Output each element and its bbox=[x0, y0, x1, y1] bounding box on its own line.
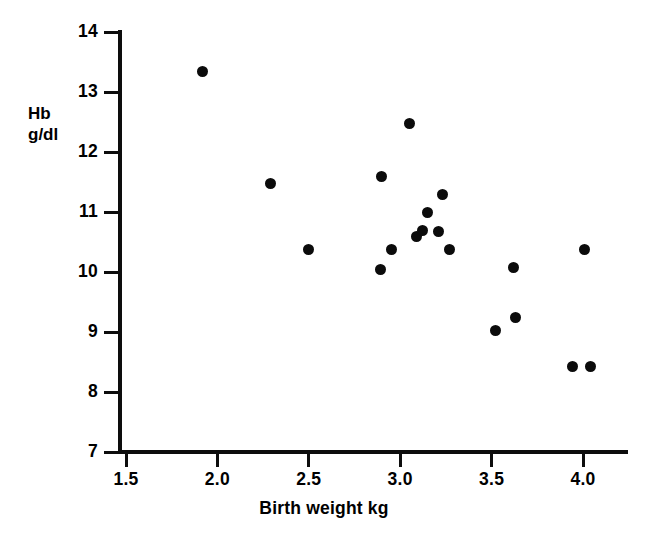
data-point bbox=[404, 118, 415, 129]
y-axis-title-line-1: g/dl bbox=[28, 125, 58, 146]
y-tick-8 bbox=[104, 391, 118, 394]
x-tick-label-1.5: 1.5 bbox=[96, 469, 156, 490]
data-point bbox=[433, 226, 444, 237]
data-point bbox=[375, 264, 386, 275]
y-tick-label-14: 14 bbox=[58, 21, 98, 42]
data-point bbox=[197, 66, 208, 77]
data-point bbox=[422, 207, 433, 218]
x-axis-line bbox=[120, 450, 628, 454]
y-tick-label-12: 12 bbox=[58, 141, 98, 162]
y-axis-title-line-0: Hb bbox=[28, 104, 58, 125]
data-point bbox=[567, 361, 578, 372]
x-tick-1.5 bbox=[125, 454, 128, 467]
data-point bbox=[585, 361, 596, 372]
y-tick-label-13: 13 bbox=[58, 81, 98, 102]
y-tick-label-8: 8 bbox=[58, 381, 98, 402]
data-point bbox=[265, 178, 276, 189]
chart-figure: 7891011121314 1.52.02.53.03.54.0 Hbg/dl … bbox=[0, 0, 648, 544]
x-axis-title: Birth weight kg bbox=[0, 498, 648, 519]
data-point bbox=[508, 262, 519, 273]
data-point bbox=[579, 244, 590, 255]
data-point bbox=[490, 325, 501, 336]
x-tick-label-3.5: 3.5 bbox=[462, 469, 522, 490]
y-axis-line bbox=[118, 30, 122, 454]
y-tick-12 bbox=[104, 151, 118, 154]
scatter-plot-area: 7891011121314 1.52.02.53.03.54.0 Hbg/dl … bbox=[0, 0, 648, 544]
y-axis-title: Hbg/dl bbox=[28, 104, 58, 145]
x-tick-label-4.0: 4.0 bbox=[553, 469, 613, 490]
data-point bbox=[444, 244, 455, 255]
x-tick-label-2.0: 2.0 bbox=[187, 469, 247, 490]
y-tick-14 bbox=[104, 31, 118, 34]
x-tick-label-3.0: 3.0 bbox=[370, 469, 430, 490]
y-tick-label-7: 7 bbox=[58, 441, 98, 462]
data-point bbox=[376, 171, 387, 182]
x-tick-2.5 bbox=[307, 454, 310, 467]
y-tick-label-10: 10 bbox=[58, 261, 98, 282]
x-tick-3.5 bbox=[490, 454, 493, 467]
data-point bbox=[417, 225, 428, 236]
y-tick-9 bbox=[104, 331, 118, 334]
x-tick-3.0 bbox=[399, 454, 402, 467]
data-point bbox=[437, 189, 448, 200]
x-tick-4.0 bbox=[582, 454, 585, 467]
data-point bbox=[303, 244, 314, 255]
x-tick-2.0 bbox=[216, 454, 219, 467]
data-point bbox=[386, 244, 397, 255]
x-tick-label-2.5: 2.5 bbox=[279, 469, 339, 490]
y-tick-label-11: 11 bbox=[58, 201, 98, 222]
data-point bbox=[510, 312, 521, 323]
y-tick-7 bbox=[104, 451, 118, 454]
y-tick-11 bbox=[104, 211, 118, 214]
y-tick-13 bbox=[104, 91, 118, 94]
y-tick-label-9: 9 bbox=[58, 321, 98, 342]
y-tick-10 bbox=[104, 271, 118, 274]
